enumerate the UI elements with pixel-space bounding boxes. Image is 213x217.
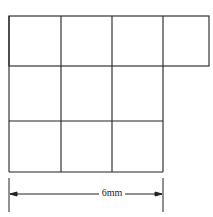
dimension-label: 6mm: [99, 187, 126, 198]
dimension-label-wrap: 6mm: [60, 187, 164, 199]
top-row-outline: [9, 16, 209, 66]
grid-lines: [9, 16, 209, 172]
arrow-head-left-icon: [10, 192, 17, 196]
square-grid-diagram: [0, 0, 213, 217]
